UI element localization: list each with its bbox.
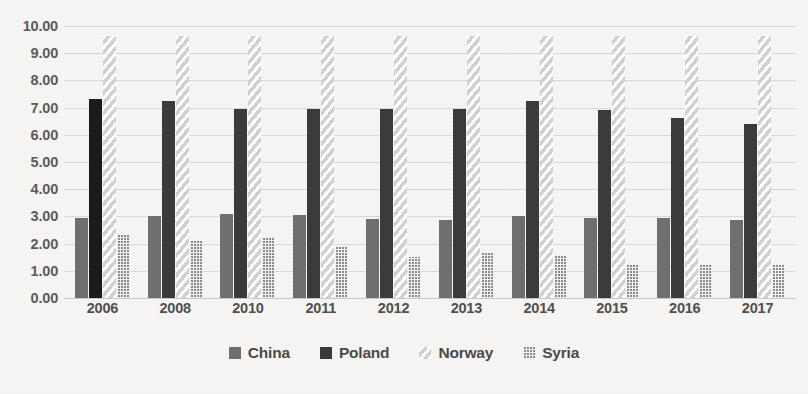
bar-norway-2012 [394, 36, 407, 298]
bar-norway-2011 [321, 36, 334, 298]
bar-group [139, 26, 212, 298]
y-axis-tick: 9.00 [31, 45, 58, 61]
x-axis-tick: 2015 [576, 300, 649, 328]
bar-poland-2012 [380, 109, 393, 298]
bar-syria-2017 [772, 265, 785, 298]
bar-norway-2013 [467, 36, 480, 298]
legend-swatch-poland-icon [320, 347, 332, 359]
legend-label: Poland [339, 344, 389, 362]
bar-norway-2014 [540, 36, 553, 298]
bar-poland-2011 [307, 109, 320, 298]
bar-groups [64, 26, 796, 298]
plot-area [64, 26, 796, 298]
bar-group [648, 26, 721, 298]
legend-item-norway[interactable]: Norway [419, 344, 493, 362]
x-axis-tick: 2010 [212, 300, 285, 328]
bar-china-2013 [439, 220, 452, 298]
bar-poland-2016 [671, 118, 684, 298]
bar-syria-2011 [335, 246, 348, 298]
y-axis-tick: 2.00 [31, 236, 58, 252]
bar-china-2006 [75, 218, 88, 298]
bar-chart: 10.009.008.007.006.005.004.003.002.001.0… [0, 0, 808, 394]
bar-norway-2016 [685, 36, 698, 298]
legend-item-poland[interactable]: Poland [320, 344, 389, 362]
bar-norway-2010 [248, 36, 261, 298]
legend-swatch-syria-icon [523, 347, 535, 359]
bar-china-2015 [584, 218, 597, 298]
x-axis-tick: 2014 [503, 300, 576, 328]
bar-norway-2008 [176, 36, 189, 298]
y-axis-tick: 1.00 [31, 263, 58, 279]
bar-group [284, 26, 357, 298]
legend-swatch-china-icon [229, 347, 241, 359]
y-axis: 10.009.008.007.006.005.004.003.002.001.0… [0, 26, 62, 298]
bar-poland-2008 [162, 101, 175, 298]
legend-swatch-norway-icon [419, 347, 431, 359]
bar-poland-2006 [89, 99, 102, 298]
legend-item-syria[interactable]: Syria [523, 344, 579, 362]
bar-group [212, 26, 285, 298]
bar-norway-2006 [103, 36, 116, 298]
bar-china-2008 [148, 216, 161, 298]
bar-china-2017 [730, 220, 743, 298]
bar-china-2011 [293, 215, 306, 298]
x-axis-tick: 2017 [721, 300, 794, 328]
y-axis-tick: 6.00 [31, 127, 58, 143]
y-axis-tick: 0.00 [31, 290, 58, 306]
bar-poland-2014 [526, 101, 539, 298]
legend-label: Norway [438, 344, 493, 362]
legend-label: Syria [542, 344, 579, 362]
legend-item-china[interactable]: China [229, 344, 290, 362]
bar-poland-2017 [744, 124, 757, 298]
bar-syria-2015 [626, 265, 639, 298]
bar-poland-2013 [453, 109, 466, 298]
legend-label: China [248, 344, 290, 362]
bar-group [721, 26, 794, 298]
bar-norway-2017 [758, 36, 771, 298]
bar-poland-2015 [598, 110, 611, 298]
bar-syria-2014 [554, 256, 567, 298]
bar-china-2010 [220, 214, 233, 298]
chart-legend: ChinaPolandNorwaySyria [0, 336, 808, 370]
x-axis-tick: 2011 [284, 300, 357, 328]
bar-group [357, 26, 430, 298]
bar-syria-2008 [190, 241, 203, 298]
bar-syria-2013 [481, 253, 494, 298]
y-axis-tick: 10.00 [23, 18, 58, 34]
bar-china-2014 [512, 216, 525, 298]
bar-poland-2010 [234, 109, 247, 298]
bar-syria-2010 [262, 237, 275, 298]
bar-group [503, 26, 576, 298]
x-axis-tick: 2016 [648, 300, 721, 328]
x-axis-tick: 2008 [139, 300, 212, 328]
bar-china-2012 [366, 219, 379, 298]
gridline [64, 298, 796, 299]
x-axis: 2006200820102011201220132014201520162017 [64, 300, 796, 328]
x-axis-tick: 2006 [66, 300, 139, 328]
bar-syria-2012 [408, 257, 421, 298]
y-axis-tick: 4.00 [31, 181, 58, 197]
y-axis-tick: 7.00 [31, 100, 58, 116]
bar-norway-2015 [612, 36, 625, 298]
bar-group [66, 26, 139, 298]
bar-syria-2006 [117, 235, 130, 298]
bar-group [576, 26, 649, 298]
y-axis-tick: 3.00 [31, 208, 58, 224]
y-axis-tick: 5.00 [31, 154, 58, 170]
bar-syria-2016 [699, 265, 712, 298]
x-axis-tick: 2013 [430, 300, 503, 328]
bar-group [430, 26, 503, 298]
y-axis-tick: 8.00 [31, 72, 58, 88]
x-axis-tick: 2012 [357, 300, 430, 328]
bar-china-2016 [657, 218, 670, 298]
